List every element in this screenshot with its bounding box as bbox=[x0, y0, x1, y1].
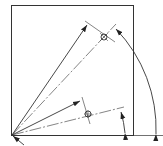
lower-angle-arc bbox=[121, 112, 125, 133]
lower-hole-centerline bbox=[12, 107, 124, 135]
lower-radius-dimension-line bbox=[12, 101, 80, 135]
origin-leader-line bbox=[13, 136, 24, 145]
upper-hole-extension-line bbox=[85, 21, 115, 42]
lower-hole-extension-line bbox=[82, 97, 90, 124]
drawing-canvas bbox=[0, 0, 163, 146]
upper-radius-dimension-line bbox=[12, 25, 87, 135]
upper-angle-arc bbox=[116, 29, 156, 134]
upper-hole-icon bbox=[100, 33, 108, 41]
